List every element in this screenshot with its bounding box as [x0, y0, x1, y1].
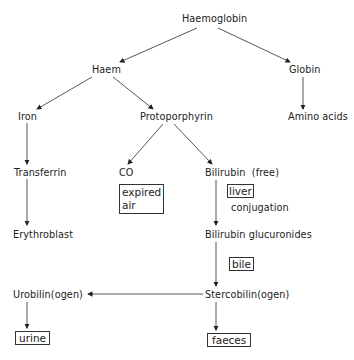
- node-bilirubin-glucuronides: Bilirubin glucuronides: [205, 228, 312, 240]
- node-protoporphyrin: Protoporphyrin: [140, 110, 213, 122]
- node-haemoglobin: Haemoglobin: [182, 12, 247, 24]
- node-haem: Haem: [92, 63, 121, 75]
- node-stercobilinogen: Stercobilin(ogen): [205, 288, 289, 300]
- node-iron: Iron: [18, 110, 37, 122]
- haemoglobin-breakdown-diagram: Haemoglobin Haem Globin Iron Protoporphy…: [0, 0, 354, 360]
- node-bilirubin-free: Bilirubin (free): [205, 166, 279, 178]
- label-conjugation: conjugation: [231, 201, 289, 213]
- node-co: CO: [119, 166, 134, 178]
- arrows-layer: [0, 0, 354, 360]
- box-liver: liver: [227, 184, 254, 198]
- arrow-haem-protoporphyrin: [113, 77, 153, 109]
- arrow-haem-iron: [37, 77, 92, 109]
- expired-air-line2: air: [122, 199, 161, 212]
- box-faeces: faeces: [207, 333, 251, 347]
- arrow-protoporphyrin-co: [128, 124, 163, 164]
- box-urine: urine: [15, 331, 50, 345]
- node-globin: Globin: [289, 63, 321, 75]
- arrow-protoporphyrin-bilirubin: [174, 124, 212, 164]
- expired-air-line1: expired: [122, 186, 161, 199]
- arrow-haemoglobin-globin: [218, 28, 290, 62]
- node-transferrin: Transferrin: [14, 166, 66, 178]
- arrow-haemoglobin-haem: [120, 28, 197, 62]
- node-urobilinogen: Urobilin(ogen): [13, 288, 83, 300]
- node-amino-acids: Amino acids: [288, 110, 348, 122]
- node-erythroblast: Erythroblast: [13, 228, 73, 240]
- box-expired-air: expired air: [119, 184, 164, 214]
- box-bile: bile: [229, 257, 254, 271]
